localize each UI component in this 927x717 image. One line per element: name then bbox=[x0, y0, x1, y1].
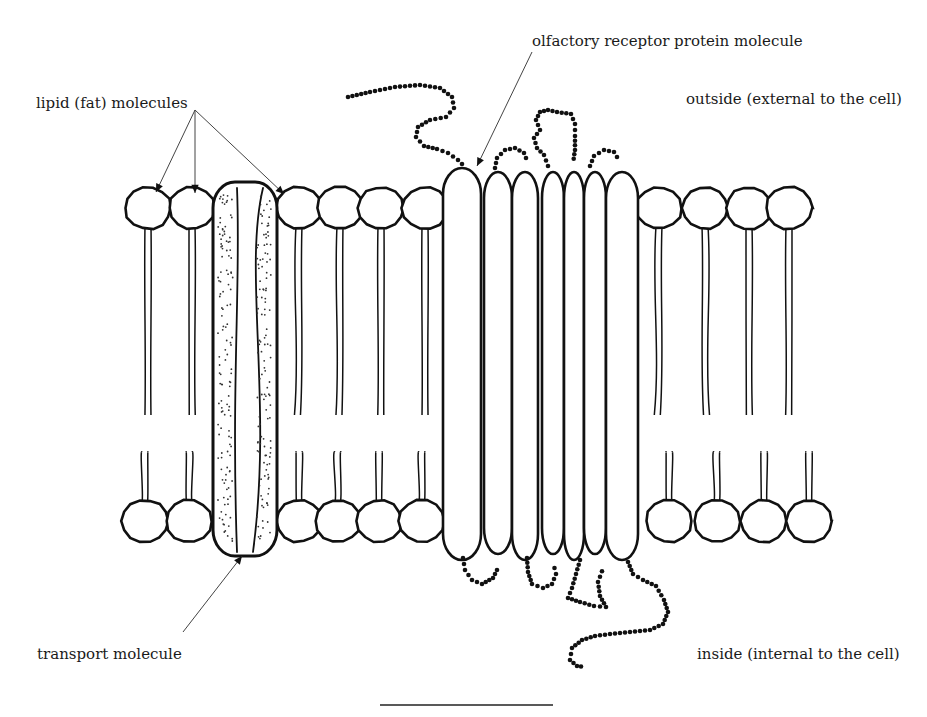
lipid-tail-lower bbox=[418, 452, 419, 503]
stipple-dot bbox=[218, 434, 220, 436]
lipid-head-outer bbox=[358, 188, 405, 229]
extracellular-loop bbox=[590, 159, 595, 164]
intracellular-loop bbox=[568, 591, 573, 596]
c-terminus-chain bbox=[638, 629, 643, 634]
extracellular-loop bbox=[494, 161, 499, 166]
intracellular-loop bbox=[541, 586, 546, 591]
stipple-dot bbox=[265, 334, 267, 336]
extracellular-loop bbox=[607, 149, 612, 154]
stipple-dot bbox=[259, 280, 261, 282]
stipple-dot bbox=[261, 215, 263, 217]
extracellular-loop bbox=[573, 122, 578, 127]
stipple-dot bbox=[218, 356, 220, 358]
stipple-dot bbox=[226, 269, 228, 271]
stipple-dot bbox=[264, 393, 266, 395]
lipid-tail-upper bbox=[342, 226, 343, 415]
stipple-dot bbox=[221, 315, 223, 317]
stipple-dot bbox=[222, 202, 224, 204]
stipple-dot bbox=[226, 250, 228, 252]
extracellular-loop bbox=[536, 114, 541, 119]
intracellular-loop bbox=[526, 570, 531, 575]
n-terminus-chain bbox=[433, 117, 438, 122]
stipple-dot bbox=[256, 296, 258, 298]
lipid-tail-upper bbox=[428, 226, 429, 415]
lipid-tail-upper bbox=[336, 226, 337, 415]
lipid-tail-lower bbox=[713, 452, 715, 503]
extracellular-loop bbox=[564, 111, 569, 116]
stipple-dot bbox=[260, 535, 262, 537]
intracellular-loop bbox=[463, 568, 468, 573]
stipple-dot bbox=[217, 332, 219, 334]
lipid-head-inner bbox=[647, 500, 692, 542]
intracellular-loop bbox=[574, 572, 579, 577]
stipple-dot bbox=[229, 241, 231, 243]
lipid-head-inner bbox=[786, 501, 832, 542]
stipple-dot bbox=[229, 237, 231, 239]
extracellular-loop bbox=[559, 110, 564, 115]
n-terminus-chain bbox=[451, 100, 456, 105]
lipid-pointer-line bbox=[156, 110, 195, 192]
stipple-dot bbox=[266, 502, 268, 504]
stipple-dot bbox=[230, 437, 232, 439]
stipple-dot bbox=[258, 536, 260, 538]
extracellular-loop bbox=[538, 128, 543, 133]
stipple-dot bbox=[220, 373, 222, 375]
stipple-dot bbox=[225, 326, 227, 328]
n-terminus-chain bbox=[408, 84, 413, 89]
stipple-dot bbox=[266, 387, 268, 389]
intracellular-loop bbox=[600, 569, 605, 574]
n-terminus-chain bbox=[433, 85, 438, 90]
n-terminus-chain bbox=[346, 95, 351, 100]
stipple-dot bbox=[221, 400, 223, 402]
stipple-dot bbox=[229, 385, 231, 387]
intracellular-loop bbox=[545, 584, 550, 589]
c-terminus-chain bbox=[618, 631, 623, 636]
stipple-dot bbox=[258, 267, 260, 269]
c-terminus-chain bbox=[649, 582, 654, 587]
lipid-head-inner bbox=[121, 501, 168, 542]
stipple-dot bbox=[227, 503, 229, 505]
n-terminus-chain bbox=[460, 162, 465, 167]
lipid-head-outer bbox=[767, 187, 813, 229]
lipid-head-inner bbox=[740, 500, 786, 542]
c-terminus-chain bbox=[645, 580, 650, 585]
intracellular-loop bbox=[571, 581, 576, 586]
intracellular-loop bbox=[597, 589, 602, 594]
stipple-dot bbox=[265, 290, 267, 292]
extracellular-loop bbox=[513, 146, 518, 151]
stipple-dot bbox=[264, 446, 266, 448]
stipple-dot bbox=[259, 443, 261, 445]
lipid-tail-lower bbox=[186, 452, 187, 503]
stipple-dot bbox=[219, 296, 221, 298]
stipple-dot bbox=[269, 463, 271, 465]
c-terminus-chain bbox=[663, 602, 668, 607]
stipple-dot bbox=[230, 517, 232, 519]
receptor-helix bbox=[443, 168, 481, 560]
extracellular-loop bbox=[522, 151, 527, 156]
extracellular-loop bbox=[571, 117, 576, 122]
stipple-dot bbox=[220, 243, 222, 245]
stipple-dot bbox=[229, 496, 231, 498]
n-terminus-chain bbox=[383, 87, 388, 92]
extracellular-loop bbox=[550, 109, 555, 114]
stipple-dot bbox=[270, 345, 272, 347]
lipid-tail-upper bbox=[702, 226, 704, 415]
stipple-dot bbox=[269, 381, 271, 383]
c-terminus-chain bbox=[629, 568, 634, 573]
n-terminus-chain bbox=[398, 84, 403, 89]
n-terminus-chain bbox=[426, 145, 431, 150]
extracellular-loop bbox=[602, 148, 607, 153]
stipple-dot bbox=[264, 455, 266, 457]
stipple-dot bbox=[264, 314, 266, 316]
stipple-dot bbox=[259, 485, 261, 487]
c-terminus-chain bbox=[654, 584, 659, 589]
stipple-dot bbox=[217, 499, 219, 501]
intracellular-loop bbox=[552, 566, 557, 571]
c-terminus-chain bbox=[608, 632, 613, 637]
stipple-dot bbox=[229, 443, 231, 445]
stipple-dot bbox=[260, 213, 262, 215]
stipple-dot bbox=[267, 493, 269, 495]
stipple-dot bbox=[227, 195, 229, 197]
stipple-dot bbox=[231, 538, 233, 540]
stipple-dot bbox=[256, 247, 258, 249]
